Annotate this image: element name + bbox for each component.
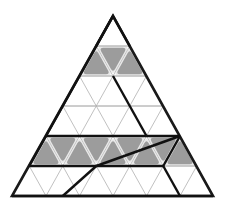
triangular-grid-net-diagram: A large equilateral triangle subdivided … [0,0,226,208]
figure-background [0,0,226,208]
figure-container: A large equilateral triangle subdivided … [0,0,226,208]
